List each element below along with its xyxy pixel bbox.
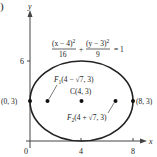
x-tick-label-4: 4 [79, 147, 83, 156]
equation-term1-denominator: 16 [59, 50, 67, 59]
center-label: C(4, 3) [70, 87, 92, 96]
focus1-label: F1(4 − √7, 3) [53, 75, 94, 85]
focus1-leader-line [49, 85, 57, 99]
x-axis-arrow-icon [140, 139, 147, 144]
ellipse-diagram: ) y x 0 4 8 6 (x − 4)2 16 + (y − 3)2 9 =… [0, 0, 157, 157]
y-tick-label-6: 6 [20, 57, 24, 66]
equation-rhs: = 1 [114, 45, 124, 54]
equation-term2-denominator: 9 [96, 50, 100, 59]
focus1-point [46, 99, 50, 103]
left-vertex-point [28, 99, 32, 103]
ellipse-equation: (x − 4)2 16 + (y − 3)2 9 = 1 [52, 38, 124, 59]
left-vertex-label: (0, 3) [1, 97, 18, 106]
y-axis-arrow-icon [28, 10, 33, 17]
focus2-label: F2(4 + √7, 3) [66, 113, 107, 123]
equation-term1-numerator: (x − 4)2 [52, 38, 75, 48]
part-label: ) [0, 0, 4, 13]
equation-plus: + [79, 45, 83, 54]
origin-label: 0 [24, 147, 28, 156]
right-vertex-point [131, 99, 135, 103]
center-point [80, 99, 84, 103]
equation-term2-numerator: (y − 3)2 [86, 38, 109, 48]
focus2-leader-line [108, 103, 114, 113]
right-vertex-label: (8, 3) [136, 97, 153, 106]
x-axis-label: x [148, 137, 153, 146]
focus2-point [114, 99, 118, 103]
x-tick-label-8: 8 [131, 147, 135, 156]
y-axis-label: y [27, 2, 32, 11]
